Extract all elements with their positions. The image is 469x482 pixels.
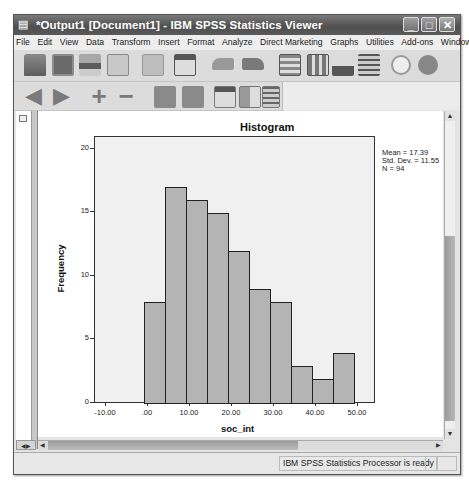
histogram-bar <box>333 353 355 404</box>
histogram-bar <box>186 200 208 404</box>
undo-icon[interactable] <box>212 58 234 70</box>
x-tick-mark <box>147 403 148 406</box>
minimize-button[interactable]: _ <box>403 17 419 32</box>
histogram-stats: Mean = 17.39 Std. Dev. = 11.55 N = 94 <box>382 149 439 173</box>
y-tick-mark <box>90 275 94 276</box>
vertical-scroll-thumb[interactable] <box>445 236 455 421</box>
use-sets-icon[interactable] <box>391 55 411 75</box>
spss-viewer-icon: ▤ <box>18 18 31 31</box>
main-toolbar <box>14 50 460 82</box>
y-tick-label: 5 <box>69 333 89 342</box>
status-message: IBM SPSS Statistics Processor is ready <box>279 456 438 471</box>
menu-transform[interactable]: Transform <box>112 35 151 50</box>
menu-format[interactable]: Format <box>187 35 214 50</box>
y-tick-label: 10 <box>69 270 89 279</box>
insert-title-icon[interactable] <box>239 86 261 108</box>
toolbar-empty-area <box>283 82 460 110</box>
window-title: *Output1 [Document1] - IBM SPSS Statisti… <box>36 15 323 35</box>
show-icon[interactable] <box>154 86 176 108</box>
insert-heading-icon[interactable] <box>214 86 236 108</box>
y-tick-label: 15 <box>69 206 89 215</box>
goto-case-icon[interactable] <box>307 54 329 76</box>
output-node-icon[interactable] <box>19 115 27 122</box>
x-tick-label: 20.00 <box>211 408 251 417</box>
x-tick-mark <box>273 403 274 406</box>
scroll-right-arrow-icon[interactable]: ▶ <box>434 441 443 450</box>
goto-data-icon[interactable] <box>279 54 301 76</box>
y-axis-label: Frequency <box>55 244 66 292</box>
scroll-down-arrow-icon[interactable]: ▼ <box>445 429 455 439</box>
select-cases-icon[interactable] <box>358 54 380 76</box>
menu-insert[interactable]: Insert <box>158 35 180 50</box>
expand-icon[interactable]: + <box>88 86 110 108</box>
redo-icon[interactable] <box>242 58 264 70</box>
x-tick-mark <box>105 403 106 406</box>
save-icon[interactable] <box>52 54 74 76</box>
x-tick-label: 30.00 <box>253 408 293 417</box>
menu-add-ons[interactable]: Add-ons <box>401 35 433 50</box>
y-tick-mark <box>90 148 94 149</box>
x-tick-mark <box>231 403 232 406</box>
variables-icon[interactable] <box>332 54 354 76</box>
vertical-scrollbar[interactable]: ▲ ▼ <box>444 111 455 439</box>
menu-file[interactable]: File <box>16 35 30 50</box>
open-icon[interactable] <box>24 54 46 76</box>
menu-view[interactable]: View <box>60 35 78 50</box>
menu-edit[interactable]: Edit <box>37 35 52 50</box>
histogram-bar <box>207 213 229 404</box>
menu-analyze[interactable]: Analyze <box>222 35 253 50</box>
collapse-icon[interactable]: − <box>115 86 137 108</box>
menu-direct-marketing[interactable]: Direct Marketing <box>260 35 323 50</box>
title-bar[interactable]: ▤ *Output1 [Document1] - IBM SPSS Statis… <box>14 15 460 35</box>
close-button[interactable]: ✕ <box>439 17 455 32</box>
output-content-pane: Histogram 20 15 10 5 0 Frequency -10.00 <box>38 111 443 437</box>
menu-data[interactable]: Data <box>86 35 104 50</box>
demote-icon[interactable]: ▶ <box>50 86 72 108</box>
outline-scroll-arrows-icon[interactable]: ◀▶ <box>16 440 36 450</box>
hide-icon[interactable] <box>182 86 204 108</box>
horizontal-scrollbar[interactable]: ◀ ▶ <box>38 440 443 450</box>
maximize-button[interactable]: □ <box>421 17 437 32</box>
chart-title: Histogram <box>240 121 294 133</box>
spss-viewer-window: ▤ *Output1 [Document1] - IBM SPSS Statis… <box>13 14 461 475</box>
x-tick-label: .00 <box>127 408 167 417</box>
histogram-bar <box>249 289 271 404</box>
y-tick-mark <box>90 402 94 403</box>
y-tick-label: 0 <box>69 397 89 406</box>
y-tick-mark <box>90 338 94 339</box>
print-preview-icon[interactable] <box>107 54 129 76</box>
status-cell <box>437 456 457 471</box>
menu-utilities[interactable]: Utilities <box>366 35 394 50</box>
y-tick-label: 20 <box>69 143 89 152</box>
menu-window[interactable]: Window <box>441 35 469 50</box>
x-axis-label: soc_int <box>221 423 254 434</box>
x-tick-label: 40.00 <box>295 408 335 417</box>
menu-graphs[interactable]: Graphs <box>330 35 358 50</box>
histogram-bar <box>165 187 187 404</box>
y-tick-mark <box>90 211 94 212</box>
outline-pane[interactable] <box>16 111 32 449</box>
histogram-bar <box>291 366 313 404</box>
show-all-icon[interactable] <box>418 55 438 75</box>
scroll-up-arrow-icon[interactable]: ▲ <box>445 111 455 121</box>
histogram-plot-area[interactable] <box>94 136 375 403</box>
insert-text-icon[interactable] <box>262 86 280 108</box>
export-icon[interactable] <box>142 54 164 76</box>
histogram-bar <box>312 379 334 404</box>
scroll-left-arrow-icon[interactable]: ◀ <box>38 441 47 450</box>
recall-dialog-icon[interactable] <box>174 54 196 76</box>
x-tick-mark <box>189 403 190 406</box>
histogram-bar <box>270 302 292 404</box>
x-tick-mark <box>315 403 316 406</box>
horizontal-scroll-thumb[interactable] <box>48 441 298 450</box>
histogram-bar <box>144 302 166 404</box>
status-cell <box>425 456 437 471</box>
x-tick-label: 10.00 <box>169 408 209 417</box>
print-icon[interactable] <box>79 54 101 76</box>
x-tick-mark <box>357 403 358 406</box>
status-bar: IBM SPSS Statistics Processor is ready <box>14 452 460 473</box>
n-stat: N = 94 <box>382 165 439 173</box>
histogram-bar <box>228 251 250 404</box>
x-tick-label: 50.00 <box>337 408 377 417</box>
promote-icon[interactable]: ◀ <box>22 86 44 108</box>
